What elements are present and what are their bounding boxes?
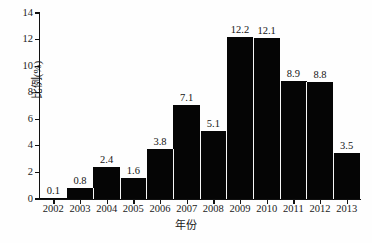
bar — [200, 131, 227, 199]
bar-separator — [120, 178, 121, 199]
bar-chart-figure: 比例(%) 02468101214 2002200320042005200620… — [0, 0, 372, 243]
y-tick-mark — [35, 66, 39, 67]
y-tick-label: 8 — [0, 87, 33, 98]
y-tick-label-text: 12 — [5, 34, 33, 45]
bar — [67, 188, 94, 199]
y-tick-mark — [35, 92, 39, 93]
bar-value-label: 3.5 — [327, 140, 367, 151]
bar-separator — [173, 149, 174, 199]
y-tick-label: 10 — [0, 61, 33, 72]
y-tick-label-text: 2 — [5, 167, 33, 178]
y-tick-label: 0 — [0, 194, 33, 205]
y-tick-mark — [35, 12, 39, 13]
y-tick-mark — [35, 172, 39, 173]
y-tick-label: 4 — [0, 140, 33, 151]
y-tick-label: 14 — [0, 8, 33, 19]
bar — [280, 81, 307, 199]
y-tick-label-text: 0 — [5, 194, 33, 205]
x-tick-label: 2013 — [330, 203, 364, 215]
y-tick-label: 2 — [0, 167, 33, 178]
bar — [333, 153, 360, 200]
bar-separator — [280, 81, 281, 199]
bar — [147, 149, 174, 199]
y-tick-mark — [35, 39, 39, 40]
bar-separator — [226, 131, 227, 199]
bar-separator — [93, 188, 94, 199]
y-tick-mark — [35, 145, 39, 146]
bar — [40, 198, 67, 199]
x-axis-title: 年份 — [0, 216, 372, 232]
bar-value-label: 2.4 — [87, 154, 127, 165]
bar — [253, 38, 280, 199]
bar-value-label: 8.8 — [300, 69, 340, 80]
bar-value-label: 7.1 — [167, 92, 207, 103]
bar-separator — [333, 153, 334, 200]
bar-separator — [306, 82, 307, 199]
y-tick-label: 12 — [0, 34, 33, 45]
y-tick-label-text: 6 — [5, 114, 33, 125]
bar-separator — [253, 38, 254, 199]
y-tick-label-text: 4 — [5, 140, 33, 151]
bar-separator — [200, 131, 201, 199]
y-tick-label-text: 14 — [5, 8, 33, 19]
bar-value-label: 12.1 — [247, 25, 287, 36]
bar-separator — [146, 178, 147, 199]
y-tick-label-text: 8 — [5, 87, 33, 98]
bar — [120, 178, 147, 199]
bars-container: 0.10.82.41.63.87.15.112.212.18.98.83.5 — [40, 13, 360, 199]
y-tick-mark — [35, 119, 39, 120]
y-tick-label-text: 10 — [5, 61, 33, 72]
y-tick-label: 6 — [0, 114, 33, 125]
bar — [227, 37, 254, 199]
y-tick-mark — [35, 198, 39, 199]
